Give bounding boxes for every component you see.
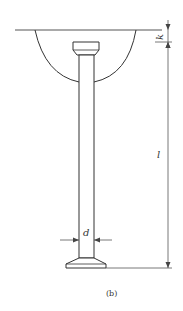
arrow-l-bottom-icon [166,262,171,268]
diagram-canvas: k l d (b) [0,0,183,311]
label-k: k [154,34,165,40]
figure-caption: (b) [106,289,117,298]
stud-base [66,258,106,268]
stud-head [73,42,99,55]
arrow-l-top-icon [166,42,171,48]
stud-diagram-svg: k l d (b) [0,0,183,311]
label-d: d [83,227,89,238]
arrow-d-left-icon [73,238,79,243]
arrow-k-top-icon [166,24,171,30]
arrow-d-right-icon [94,238,100,243]
label-l: l [157,149,160,160]
